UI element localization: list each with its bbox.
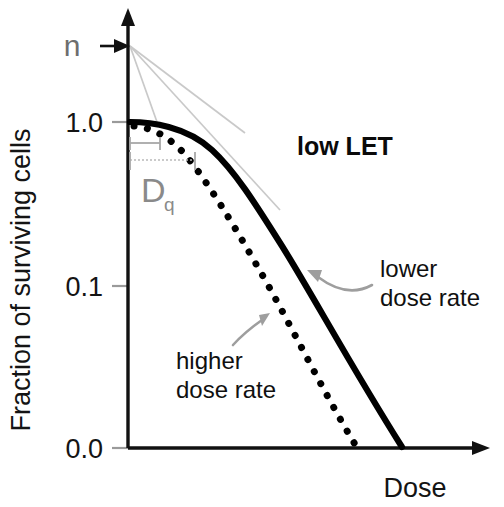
higher-dose-rate-label-line2: dose rate [176,376,276,403]
higher-dose-rate-label-line1: higher [176,347,243,374]
lower-dose-rate-label-line2: dose rate [380,284,480,311]
n-label: n [64,29,81,62]
y-axis-title: Fraction of surviving cells [6,128,36,431]
dq-label: D [141,171,166,209]
y-tick-label-0-0: 0.0 [65,434,103,464]
y-tick-label-0-1: 0.1 [65,272,103,302]
lower-dose-rate-label-line1: lower [380,255,437,282]
x-axis-title: Dose [383,473,446,503]
y-tick-label-1-0: 1.0 [65,108,103,138]
dq-subscript-label: q [164,194,175,215]
cell-survival-curve-figure: n D q 1.0 0.1 0.0 Fraction of surviving … [0,0,504,507]
low-let-label: low LET [297,132,393,160]
